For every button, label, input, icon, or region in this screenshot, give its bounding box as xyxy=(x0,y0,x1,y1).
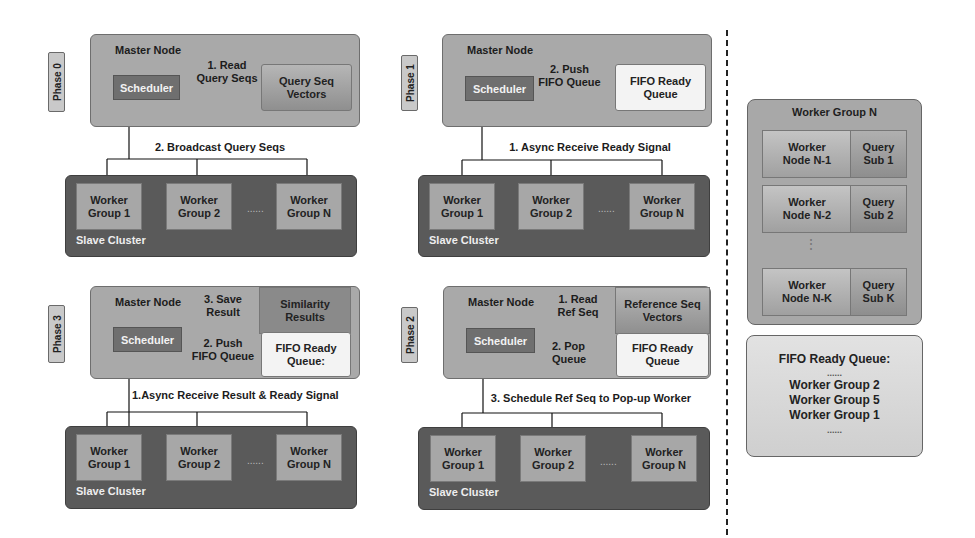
scheduler: Scheduler xyxy=(113,75,180,100)
dashed-divider xyxy=(726,30,728,535)
reference-seq-vectors: Reference Seq Vectors xyxy=(615,287,710,334)
worker-group-2: Worker Group 2 xyxy=(518,183,584,230)
ellipsis: ...... xyxy=(247,455,264,466)
fifo-ready-queue: FIFO Ready Queue xyxy=(616,333,709,377)
ellipsis: ...... xyxy=(247,203,264,214)
queue-item-0: Worker Group 2 xyxy=(747,378,922,393)
worker-group-n: Worker Group N xyxy=(276,434,342,481)
worker-group-n-title: Worker Group N xyxy=(748,106,921,118)
query-sub-1: Query Sub 1 xyxy=(850,130,907,178)
master-node-label: Master Node xyxy=(467,44,533,56)
worker-group-2: Worker Group 2 xyxy=(166,183,232,230)
phase-tag-label: Phase 0 xyxy=(51,63,62,101)
worker-node-n-2: Worker Node N-2 xyxy=(762,185,852,233)
worker-node-n-1: Worker Node N-1 xyxy=(762,130,852,178)
query-seq-vectors: Query Seq Vectors xyxy=(261,64,352,111)
worker-group-1: Worker Group 1 xyxy=(430,435,496,482)
phase-tag-label: Phase 1 xyxy=(404,64,415,102)
edge-label-read-ref-seq: 1. Read Ref Seq xyxy=(548,293,608,319)
edge-label-save-result: 3. Save Result xyxy=(193,293,253,319)
phase-tag: Phase 0 xyxy=(48,52,65,112)
worker-node-n-k: Worker Node N-K xyxy=(762,268,852,316)
ellipsis: ...... xyxy=(600,456,617,467)
fifo-queue-title: FIFO Ready Queue: xyxy=(747,352,922,366)
master-node-label: Master Node xyxy=(115,44,181,56)
edge-label-async-result-ready: 1.Async Receive Result & Ready Signal xyxy=(132,389,332,402)
edge-label-read-query: 1. Read Query Seqs xyxy=(192,59,262,85)
queue-item-1: Worker Group 5 xyxy=(747,393,922,408)
edge-label-push-fifo: 2. Push FIFO Queue xyxy=(188,337,258,363)
worker-group-n: Worker Group N xyxy=(631,435,697,482)
phase-tag: Phase 2 xyxy=(401,307,418,363)
phase-tag: Phase 3 xyxy=(48,305,65,363)
fifo-queue-example: FIFO Ready Queue: ...... Worker Group 2 … xyxy=(746,335,923,457)
queue-item-2: Worker Group 1 xyxy=(747,408,922,423)
slave-cluster-label: Slave Cluster xyxy=(429,486,499,498)
worker-group-n: Worker Group N xyxy=(629,183,695,230)
edge-label-broadcast: 2. Broadcast Query Seqs xyxy=(150,141,290,154)
worker-group-2: Worker Group 2 xyxy=(166,434,232,481)
master-node-label: Master Node xyxy=(115,296,181,308)
phase-tag: Phase 1 xyxy=(401,55,418,111)
scheduler: Scheduler xyxy=(113,327,182,352)
slave-cluster-label: Slave Cluster xyxy=(76,234,146,246)
similarity-results: Similarity Results xyxy=(259,287,351,334)
worker-group-1: Worker Group 1 xyxy=(76,434,142,481)
worker-group-1: Worker Group 1 xyxy=(429,183,495,230)
edge-label-async-ready: 1. Async Receive Ready Signal xyxy=(495,141,685,154)
queue-bottom-ellipsis: ...... xyxy=(747,425,922,435)
query-sub-2: Query Sub 2 xyxy=(850,185,907,233)
vertical-ellipsis: ⋮ xyxy=(804,236,818,252)
worker-group-n: Worker Group N xyxy=(276,183,342,230)
master-node-label: Master Node xyxy=(468,296,534,308)
fifo-ready-queue: FIFO Ready Queue xyxy=(615,64,706,111)
ellipsis: ...... xyxy=(598,203,615,214)
scheduler: Scheduler xyxy=(465,76,534,101)
fifo-ready-queue: FIFO Ready Queue: xyxy=(261,332,351,377)
scheduler: Scheduler xyxy=(466,328,535,353)
worker-group-1: Worker Group 1 xyxy=(76,183,142,230)
worker-group-2: Worker Group 2 xyxy=(520,435,586,482)
phase-tag-label: Phase 2 xyxy=(404,316,415,354)
query-sub-k: Query Sub K xyxy=(850,268,907,316)
edge-label-schedule-ref-seq: 3. Schedule Ref Seq to Pop-up Worker xyxy=(486,392,696,405)
phase-tag-label: Phase 3 xyxy=(51,315,62,353)
slave-cluster-label: Slave Cluster xyxy=(76,485,146,497)
slave-cluster-label: Slave Cluster xyxy=(429,234,499,246)
edge-label-push-fifo: 2. Push FIFO Queue xyxy=(537,63,602,89)
queue-top-ellipsis: ...... xyxy=(747,368,922,378)
edge-label-pop-queue: 2. Pop Queue xyxy=(552,340,597,366)
